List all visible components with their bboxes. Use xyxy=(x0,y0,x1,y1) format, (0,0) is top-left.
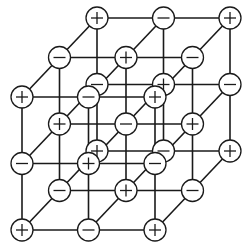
positive-ion-node xyxy=(144,219,166,241)
crystal-lattice-diagram xyxy=(0,0,251,250)
negative-ion-node xyxy=(182,180,204,202)
positive-ion-node xyxy=(219,7,241,29)
negative-ion-node xyxy=(219,74,241,96)
lattice-svg xyxy=(0,0,251,250)
negative-ion-node xyxy=(11,153,33,175)
negative-ion-node xyxy=(78,219,100,241)
negative-ion-node xyxy=(49,180,71,202)
negative-ion-node xyxy=(78,86,100,108)
positive-ion-node xyxy=(115,180,137,202)
positive-ion-node xyxy=(219,140,241,162)
negative-ion-node xyxy=(144,153,166,175)
positive-ion-node xyxy=(115,47,137,69)
positive-ion-node xyxy=(11,86,33,108)
negative-ion-node xyxy=(115,113,137,135)
positive-ion-node xyxy=(144,86,166,108)
positive-ion-node xyxy=(11,219,33,241)
positive-ion-node xyxy=(86,7,108,29)
positive-ion-node xyxy=(78,153,100,175)
positive-ion-node xyxy=(49,113,71,135)
negative-ion-node xyxy=(49,47,71,69)
positive-ion-node xyxy=(182,113,204,135)
negative-ion-node xyxy=(182,47,204,69)
negative-ion-node xyxy=(153,7,175,29)
